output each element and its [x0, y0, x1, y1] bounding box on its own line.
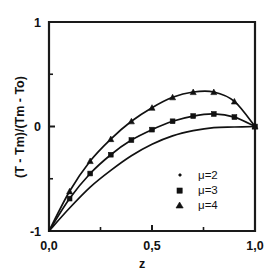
- dot-icon: [179, 174, 182, 177]
- chart-figure: 1 0 -1 0,0 0,5 1,0 z (T - Tm)/(Tm - To) …: [0, 0, 278, 280]
- marker-square: [211, 112, 216, 117]
- legend: μ=2 μ=3 μ=4: [176, 169, 218, 211]
- curve-mu4: [49, 91, 255, 231]
- x-tick-label-left: 0,0: [40, 239, 57, 253]
- legend-entry-mu2: μ=2: [179, 169, 218, 181]
- chart-canvas: 1 0 -1 0,0 0,5 1,0 z (T - Tm)/(Tm - To) …: [0, 0, 278, 280]
- square-icon: [177, 188, 182, 193]
- y-tick-label-mid: 0: [34, 120, 41, 134]
- marker-square: [129, 138, 134, 143]
- marker-square: [232, 115, 237, 120]
- marker-square: [150, 127, 155, 132]
- curve-mu2: [49, 127, 255, 232]
- y-tick-label-top: 1: [34, 16, 41, 30]
- y-axis-title: (T - Tm)/(Tm - To): [13, 76, 27, 178]
- legend-label-mu2: μ=2: [198, 169, 218, 181]
- marker-square: [108, 152, 113, 157]
- y-tick-label-bottom: -1: [30, 225, 41, 239]
- data-curves: [49, 91, 255, 231]
- legend-label-mu3: μ=3: [198, 184, 218, 196]
- legend-entry-mu3: μ=3: [177, 184, 218, 196]
- marker-square: [191, 114, 196, 119]
- x-tick-label-right: 1,0: [246, 239, 263, 253]
- x-tick-label-mid: 0,5: [143, 239, 160, 253]
- legend-label-mu4: μ=4: [198, 199, 218, 211]
- marker-square: [170, 119, 175, 124]
- marker-square: [88, 171, 93, 176]
- legend-entry-mu4: μ=4: [176, 199, 218, 211]
- marker-square: [67, 196, 72, 201]
- data-markers: [67, 89, 258, 201]
- triangle-icon: [176, 202, 183, 208]
- x-axis-title: z: [139, 257, 145, 271]
